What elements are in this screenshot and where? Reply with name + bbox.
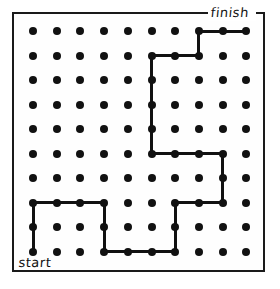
grid-dot[interactable] <box>195 52 203 60</box>
grid-dot[interactable] <box>53 199 61 207</box>
grid-dot[interactable] <box>124 223 132 231</box>
grid-dot[interactable] <box>53 248 61 256</box>
grid-dot[interactable] <box>242 101 250 109</box>
grid-dot[interactable] <box>100 150 108 158</box>
grid-dot[interactable] <box>171 101 179 109</box>
grid-dot[interactable] <box>53 223 61 231</box>
grid-dot[interactable] <box>195 150 203 158</box>
grid-dot[interactable] <box>76 199 84 207</box>
grid-dot[interactable] <box>124 101 132 109</box>
grid-dot[interactable] <box>242 52 250 60</box>
grid-dot[interactable] <box>219 248 227 256</box>
path-segment <box>33 201 104 204</box>
grid-dot[interactable] <box>29 223 37 231</box>
grid-dot[interactable] <box>195 76 203 84</box>
grid-dot[interactable] <box>148 52 156 60</box>
grid-dot[interactable] <box>219 52 227 60</box>
grid-dot[interactable] <box>171 52 179 60</box>
grid-dot[interactable] <box>100 248 108 256</box>
grid-dot[interactable] <box>29 125 37 133</box>
grid-dot[interactable] <box>171 199 179 207</box>
grid-dot[interactable] <box>195 223 203 231</box>
grid-dot[interactable] <box>53 76 61 84</box>
grid-dot[interactable] <box>29 27 37 35</box>
grid-dot[interactable] <box>124 150 132 158</box>
grid-dot[interactable] <box>219 76 227 84</box>
grid-dot[interactable] <box>124 199 132 207</box>
grid-dot[interactable] <box>219 150 227 158</box>
grid-dot[interactable] <box>124 174 132 182</box>
grid-dot[interactable] <box>219 101 227 109</box>
grid-dot[interactable] <box>148 248 156 256</box>
grid-dot[interactable] <box>53 150 61 158</box>
grid-dot[interactable] <box>53 174 61 182</box>
grid-dot[interactable] <box>53 27 61 35</box>
grid-dot[interactable] <box>219 27 227 35</box>
grid-dot[interactable] <box>53 101 61 109</box>
grid-dot[interactable] <box>242 150 250 158</box>
grid-dot[interactable] <box>76 101 84 109</box>
grid-dot[interactable] <box>29 101 37 109</box>
grid-dot[interactable] <box>148 125 156 133</box>
grid-dot[interactable] <box>148 174 156 182</box>
path-segment <box>104 250 175 253</box>
grid-dot[interactable] <box>124 125 132 133</box>
grid-dot[interactable] <box>171 248 179 256</box>
grid-dot[interactable] <box>219 174 227 182</box>
grid-dot[interactable] <box>29 174 37 182</box>
grid-dot[interactable] <box>171 150 179 158</box>
grid-dot[interactable] <box>53 125 61 133</box>
grid-dot[interactable] <box>195 27 203 35</box>
dot-grid-path-puzzle: finishstart <box>0 0 280 289</box>
grid-dot[interactable] <box>76 52 84 60</box>
grid-dot[interactable] <box>219 199 227 207</box>
grid-dot[interactable] <box>148 27 156 35</box>
grid-dot[interactable] <box>242 248 250 256</box>
grid-dot[interactable] <box>53 52 61 60</box>
grid-dot[interactable] <box>124 248 132 256</box>
grid-dot[interactable] <box>76 248 84 256</box>
grid-dot[interactable] <box>100 101 108 109</box>
grid-dot[interactable] <box>124 27 132 35</box>
grid-dot[interactable] <box>100 199 108 207</box>
grid-dot[interactable] <box>29 76 37 84</box>
grid-dot[interactable] <box>148 150 156 158</box>
grid-dot[interactable] <box>195 199 203 207</box>
grid-dot[interactable] <box>124 52 132 60</box>
grid-dot[interactable] <box>219 223 227 231</box>
grid-dot[interactable] <box>29 150 37 158</box>
grid-dot[interactable] <box>195 125 203 133</box>
grid-dot[interactable] <box>195 101 203 109</box>
grid-dot[interactable] <box>124 76 132 84</box>
grid-dot[interactable] <box>76 150 84 158</box>
path-segment <box>152 152 223 155</box>
grid-dot[interactable] <box>148 199 156 207</box>
grid-dot[interactable] <box>219 125 227 133</box>
grid-dot[interactable] <box>148 223 156 231</box>
grid-dot[interactable] <box>195 248 203 256</box>
grid-dot[interactable] <box>100 52 108 60</box>
grid-dot[interactable] <box>195 174 203 182</box>
start-label: start <box>18 255 52 270</box>
grid-dot[interactable] <box>148 101 156 109</box>
grid-dot[interactable] <box>242 199 250 207</box>
puzzle-board-frame <box>12 12 265 272</box>
grid-dot[interactable] <box>148 76 156 84</box>
grid-dot[interactable] <box>29 199 37 207</box>
grid-dot[interactable] <box>29 52 37 60</box>
finish-label: finish <box>210 5 250 20</box>
